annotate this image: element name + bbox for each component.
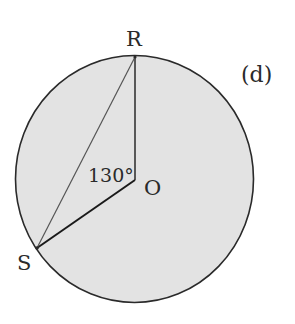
point-R-dot [133, 55, 136, 58]
center-O-label: O [144, 176, 161, 200]
panel-label: (d) [241, 62, 272, 87]
point-S-label: S [17, 251, 31, 275]
point-S-dot [35, 246, 39, 250]
circle-theorem-diagram: R S O 130° (d) [0, 0, 295, 324]
angle-label: 130° [88, 164, 134, 186]
point-R-label: R [126, 27, 143, 51]
